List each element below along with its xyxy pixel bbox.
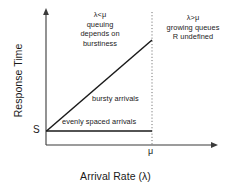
subcritical-line-3: depends on: [52, 29, 148, 39]
region-label-supercritical: λ>μ growing queues R undefined: [155, 13, 231, 42]
y-axis-origin-label-s: S: [33, 124, 40, 136]
subcritical-line-2: queuing: [52, 20, 148, 30]
x-axis-tick-label-mu: μ: [148, 146, 153, 157]
x-axis-title: Arrival Rate (λ): [0, 170, 231, 183]
supercritical-line-2: growing queues: [155, 23, 231, 33]
region-label-subcritical: λ<μ queuing depends on burstiness: [52, 10, 148, 48]
y-axis-arrowhead: [43, 8, 49, 15]
x-axis-arrowhead: [211, 142, 218, 148]
subcritical-line-4: burstiness: [52, 39, 148, 49]
supercritical-condition: λ>μ: [155, 13, 231, 23]
curve-label-evenly-spaced-arrivals: evenly spaced arrivals: [62, 117, 136, 127]
subcritical-condition: λ<μ: [52, 10, 148, 20]
supercritical-line-3: R undefined: [155, 32, 231, 42]
queueing-response-time-chart: λ<μ queuing depends on burstiness λ>μ gr…: [0, 0, 231, 192]
curve-label-bursty-arrivals: bursty arrivals: [92, 94, 139, 104]
y-axis-title: Response Time: [12, 25, 25, 137]
